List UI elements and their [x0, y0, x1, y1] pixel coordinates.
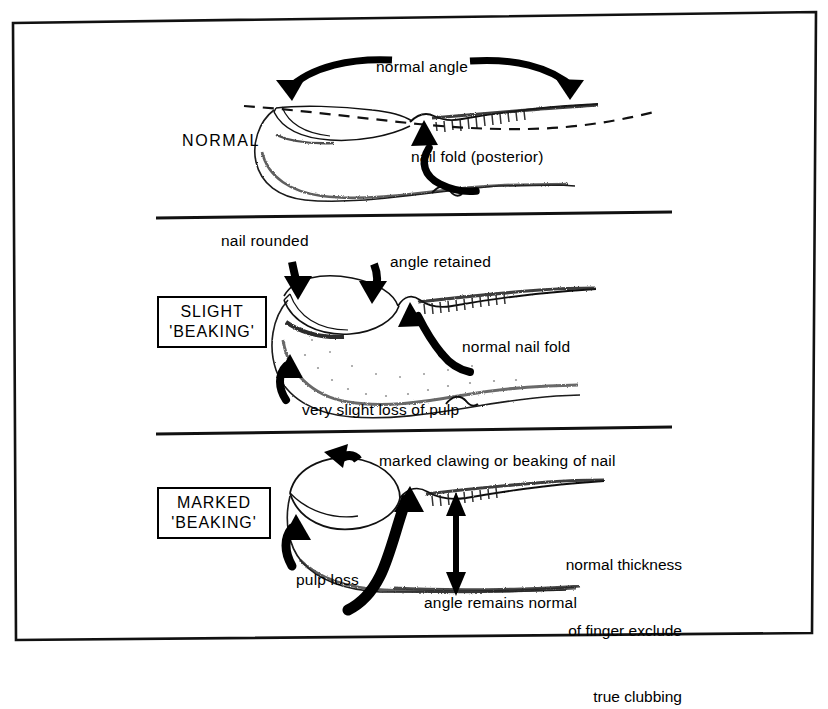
- panel-tag-normal: NORMAL: [182, 132, 260, 150]
- panel-tag-marked-beaking: MARKED 'BEAKING': [157, 487, 271, 539]
- panel-tag-slight-line2: 'BEAKING': [165, 322, 259, 342]
- label-pulp-loss: pulp loss: [296, 571, 359, 588]
- label-normal-nail-fold: normal nail fold: [462, 338, 570, 355]
- panel-normal-artwork: [244, 60, 654, 202]
- label-nail-rounded: nail rounded: [221, 232, 309, 249]
- label-very-slight-loss-of-pulp: very slight loss of pulp: [302, 401, 459, 418]
- panel-divider-2: [156, 427, 672, 434]
- label-thickness-line2: of finger exclude: [462, 620, 682, 642]
- label-marked-clawing: marked clawing or beaking of nail: [379, 452, 616, 469]
- panel-tag-slight-line1: SLIGHT: [165, 302, 259, 322]
- panel-tag-slight-beaking: SLIGHT 'BEAKING': [157, 296, 267, 348]
- panel-tag-marked-line2: 'BEAKING': [165, 513, 263, 533]
- label-nail-fold-posterior: nail fold (posterior): [411, 148, 544, 165]
- label-thickness-line3: true clubbing: [462, 686, 682, 708]
- label-thickness-line1: normal thickness: [462, 554, 682, 576]
- label-normal-angle: normal angle: [376, 58, 468, 75]
- label-angle-retained: angle retained: [390, 253, 491, 270]
- label-angle-remains-normal: angle remains normal: [424, 594, 577, 611]
- panel-divider-1: [156, 212, 672, 218]
- panel-tag-marked-line1: MARKED: [165, 493, 263, 513]
